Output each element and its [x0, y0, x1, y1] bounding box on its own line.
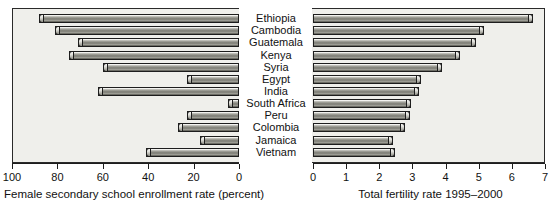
- bar-row: [12, 87, 239, 96]
- axis-tick: [545, 164, 546, 169]
- bar-syria: [103, 63, 239, 72]
- bar-row: [12, 38, 239, 47]
- bar-peru: [187, 111, 239, 120]
- bar-peru: [313, 111, 410, 120]
- bar-row: [313, 136, 545, 145]
- left-chart-panel: 100806040200 Female secondary school enr…: [0, 0, 240, 218]
- bar-row: [313, 123, 545, 132]
- bar-guatemala: [78, 38, 239, 47]
- axis-tick-label: 7: [542, 170, 548, 184]
- country-label: Cambodia: [240, 26, 312, 35]
- axis-tick: [379, 164, 380, 169]
- axis-tick: [12, 164, 13, 169]
- left-bar-rows: [12, 8, 239, 163]
- country-label: Jamaica: [240, 136, 312, 145]
- bar-south-africa: [313, 99, 411, 108]
- axis-tick: [412, 164, 413, 169]
- axis-tick-label: 1: [343, 170, 349, 184]
- bar-row: [313, 111, 545, 120]
- bar-kenya: [69, 51, 239, 60]
- bar-kenya: [313, 51, 460, 60]
- bar-row: [12, 136, 239, 145]
- bar-row: [12, 63, 239, 72]
- bar-row: [12, 75, 239, 84]
- axis-tick: [57, 164, 58, 169]
- axis-tick: [446, 164, 447, 169]
- bar-ethiopia: [313, 14, 533, 23]
- bar-india: [313, 87, 419, 96]
- bar-vietnam: [313, 148, 395, 157]
- axis-tick-label: 3: [409, 170, 415, 184]
- country-label: South Africa: [240, 99, 312, 108]
- bar-row: [12, 14, 239, 23]
- bar-row: [313, 26, 545, 35]
- bar-row: [313, 87, 545, 96]
- country-label: Vietnam: [240, 148, 312, 157]
- bar-row: [12, 99, 239, 108]
- bar-row: [12, 148, 239, 157]
- country-label: Syria: [240, 63, 312, 72]
- bar-colombia: [313, 123, 405, 132]
- bar-ethiopia: [39, 14, 239, 23]
- right-chart-panel: 01234567 Total fertility rate 1995–2000: [312, 0, 553, 218]
- country-label: Ethiopia: [240, 14, 312, 23]
- bar-egypt: [187, 75, 239, 84]
- bar-row: [12, 111, 239, 120]
- country-label-list: EthiopiaCambodiaGuatemalaKenyaSyriaEgypt…: [240, 8, 312, 163]
- bar-row: [12, 123, 239, 132]
- paired-bar-chart-figure: 100806040200 Female secondary school enr…: [0, 0, 553, 218]
- axis-tick: [479, 164, 480, 169]
- bar-row: [313, 148, 545, 157]
- country-label: Peru: [240, 111, 312, 120]
- left-axis-title: Female secondary school enrollment rate …: [4, 188, 240, 200]
- axis-tick: [512, 164, 513, 169]
- axis-tick-label: 100: [3, 170, 21, 184]
- bar-syria: [313, 63, 442, 72]
- axis-tick: [194, 164, 195, 169]
- axis-tick-label: 5: [476, 170, 482, 184]
- bar-vietnam: [146, 148, 239, 157]
- bar-row: [12, 26, 239, 35]
- left-x-tick-labels: 100806040200: [12, 170, 239, 184]
- bar-row: [313, 14, 545, 23]
- bar-row: [12, 51, 239, 60]
- axis-tick: [148, 164, 149, 169]
- axis-tick-label: 80: [51, 170, 63, 184]
- bar-row: [313, 51, 545, 60]
- axis-tick-label: 40: [142, 170, 154, 184]
- bar-row: [313, 75, 545, 84]
- axis-tick-label: 20: [187, 170, 199, 184]
- axis-tick-label: 6: [509, 170, 515, 184]
- right-x-tick-labels: 01234567: [313, 170, 545, 184]
- category-labels-panel: EthiopiaCambodiaGuatemalaKenyaSyriaEgypt…: [240, 0, 312, 218]
- axis-tick: [313, 164, 314, 169]
- axis-tick-label: 0: [310, 170, 316, 184]
- country-label: India: [240, 87, 312, 96]
- country-label: Colombia: [240, 123, 312, 132]
- axis-tick: [346, 164, 347, 169]
- bar-egypt: [313, 75, 421, 84]
- bar-india: [98, 87, 239, 96]
- axis-tick-label: 60: [97, 170, 109, 184]
- bar-cambodia: [55, 26, 239, 35]
- country-label: Guatemala: [240, 38, 312, 47]
- right-axis-title: Total fertility rate 1995–2000: [312, 188, 549, 200]
- axis-tick-label: 2: [376, 170, 382, 184]
- bar-guatemala: [313, 38, 476, 47]
- country-label: Kenya: [240, 51, 312, 60]
- axis-tick: [103, 164, 104, 169]
- bar-south-africa: [228, 99, 239, 108]
- bar-row: [313, 99, 545, 108]
- axis-tick-label: 4: [443, 170, 449, 184]
- country-label: Egypt: [240, 75, 312, 84]
- bar-jamaica: [313, 136, 393, 145]
- bar-colombia: [178, 123, 239, 132]
- bar-cambodia: [313, 26, 484, 35]
- bar-jamaica: [200, 136, 239, 145]
- right-bar-rows: [313, 8, 545, 163]
- bar-row: [313, 38, 545, 47]
- bar-row: [313, 63, 545, 72]
